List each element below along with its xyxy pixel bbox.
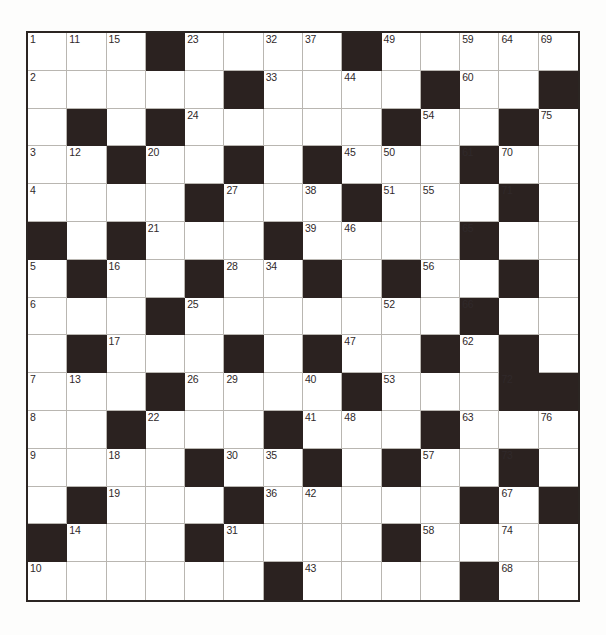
grid-letter-cell[interactable]: 63 <box>460 411 499 449</box>
grid-letter-cell[interactable] <box>382 487 421 525</box>
grid-letter-cell[interactable] <box>264 298 303 336</box>
grid-letter-cell[interactable] <box>28 335 67 373</box>
grid-letter-cell[interactable] <box>303 298 342 336</box>
grid-letter-cell[interactable]: 7 <box>28 373 67 411</box>
grid-letter-cell[interactable]: 53 <box>382 373 421 411</box>
grid-letter-cell[interactable] <box>421 298 460 336</box>
grid-letter-cell[interactable] <box>224 298 263 336</box>
grid-letter-cell[interactable] <box>342 260 381 298</box>
grid-letter-cell[interactable] <box>421 33 460 71</box>
grid-letter-cell[interactable]: 48 <box>342 411 381 449</box>
grid-letter-cell[interactable]: 69 <box>539 33 578 71</box>
grid-letter-cell[interactable] <box>539 335 578 373</box>
grid-letter-cell[interactable] <box>460 184 499 222</box>
grid-letter-cell[interactable]: 57 <box>421 449 460 487</box>
grid-letter-cell[interactable] <box>107 373 146 411</box>
grid-letter-cell[interactable] <box>146 487 185 525</box>
grid-letter-cell[interactable] <box>264 524 303 562</box>
grid-letter-cell[interactable]: 43 <box>303 562 342 600</box>
grid-letter-cell[interactable] <box>460 109 499 147</box>
grid-letter-cell[interactable]: 10 <box>28 562 67 600</box>
grid-letter-cell[interactable]: 74 <box>499 524 538 562</box>
grid-letter-cell[interactable]: 36 <box>264 487 303 525</box>
grid-letter-cell[interactable] <box>264 146 303 184</box>
grid-letter-cell[interactable] <box>264 109 303 147</box>
grid-letter-cell[interactable]: 45 <box>342 146 381 184</box>
grid-letter-cell[interactable]: 70 <box>499 146 538 184</box>
grid-letter-cell[interactable]: 1 <box>28 33 67 71</box>
grid-letter-cell[interactable] <box>342 487 381 525</box>
grid-letter-cell[interactable]: 9 <box>28 449 67 487</box>
grid-letter-cell[interactable] <box>107 71 146 109</box>
grid-letter-cell[interactable] <box>146 260 185 298</box>
grid-letter-cell[interactable] <box>499 411 538 449</box>
grid-letter-cell[interactable]: 30 <box>224 449 263 487</box>
grid-letter-cell[interactable]: 64 <box>499 33 538 71</box>
grid-letter-cell[interactable] <box>382 411 421 449</box>
grid-letter-cell[interactable] <box>185 335 224 373</box>
grid-letter-cell[interactable]: 62 <box>460 335 499 373</box>
grid-letter-cell[interactable] <box>421 146 460 184</box>
grid-letter-cell[interactable]: 16 <box>107 260 146 298</box>
grid-letter-cell[interactable] <box>421 487 460 525</box>
grid-letter-cell[interactable]: 24 <box>185 109 224 147</box>
grid-letter-cell[interactable] <box>28 487 67 525</box>
grid-letter-cell[interactable] <box>342 298 381 336</box>
grid-letter-cell[interactable] <box>146 562 185 600</box>
grid-letter-cell[interactable] <box>303 109 342 147</box>
grid-letter-cell[interactable]: 25 <box>185 298 224 336</box>
grid-letter-cell[interactable] <box>539 146 578 184</box>
grid-letter-cell[interactable] <box>264 184 303 222</box>
grid-letter-cell[interactable] <box>185 146 224 184</box>
grid-letter-cell[interactable]: 6 <box>28 298 67 336</box>
grid-letter-cell[interactable]: 8 <box>28 411 67 449</box>
grid-letter-cell[interactable] <box>67 562 106 600</box>
grid-letter-cell[interactable] <box>421 222 460 260</box>
grid-letter-cell[interactable]: 3 <box>28 146 67 184</box>
grid-letter-cell[interactable]: 67 <box>499 487 538 525</box>
grid-letter-cell[interactable] <box>499 71 538 109</box>
grid-letter-cell[interactable] <box>146 71 185 109</box>
grid-letter-cell[interactable]: 20 <box>146 146 185 184</box>
grid-letter-cell[interactable] <box>499 298 538 336</box>
grid-letter-cell[interactable] <box>539 562 578 600</box>
grid-letter-cell[interactable] <box>146 335 185 373</box>
grid-letter-cell[interactable] <box>146 449 185 487</box>
grid-letter-cell[interactable]: 34 <box>264 260 303 298</box>
grid-letter-cell[interactable]: 41 <box>303 411 342 449</box>
grid-letter-cell[interactable]: 52 <box>382 298 421 336</box>
grid-letter-cell[interactable] <box>146 524 185 562</box>
grid-letter-cell[interactable]: 68 <box>499 562 538 600</box>
grid-letter-cell[interactable]: 31 <box>224 524 263 562</box>
grid-letter-cell[interactable] <box>303 524 342 562</box>
grid-letter-cell[interactable]: 39 <box>303 222 342 260</box>
grid-letter-cell[interactable] <box>224 222 263 260</box>
grid-letter-cell[interactable]: 42 <box>303 487 342 525</box>
grid-letter-cell[interactable] <box>539 449 578 487</box>
grid-letter-cell[interactable]: 2 <box>28 71 67 109</box>
grid-letter-cell[interactable] <box>460 260 499 298</box>
grid-letter-cell[interactable]: 50 <box>382 146 421 184</box>
grid-letter-cell[interactable]: 75 <box>539 109 578 147</box>
grid-letter-cell[interactable] <box>107 109 146 147</box>
grid-letter-cell[interactable] <box>224 562 263 600</box>
grid-letter-cell[interactable]: 14 <box>67 524 106 562</box>
grid-letter-cell[interactable]: 27 <box>224 184 263 222</box>
grid-letter-cell[interactable] <box>342 524 381 562</box>
grid-letter-cell[interactable]: 32 <box>264 33 303 71</box>
grid-letter-cell[interactable] <box>107 562 146 600</box>
grid-letter-cell[interactable]: 5 <box>28 260 67 298</box>
grid-letter-cell[interactable]: 12 <box>67 146 106 184</box>
grid-letter-cell[interactable] <box>342 449 381 487</box>
grid-letter-cell[interactable] <box>539 222 578 260</box>
grid-letter-cell[interactable] <box>342 109 381 147</box>
grid-letter-cell[interactable] <box>264 335 303 373</box>
grid-letter-cell[interactable]: 29 <box>224 373 263 411</box>
grid-letter-cell[interactable] <box>460 449 499 487</box>
grid-letter-cell[interactable]: 55 <box>421 184 460 222</box>
grid-letter-cell[interactable]: 60 <box>460 71 499 109</box>
grid-letter-cell[interactable]: 28 <box>224 260 263 298</box>
grid-letter-cell[interactable] <box>539 184 578 222</box>
grid-letter-cell[interactable]: 33 <box>264 71 303 109</box>
grid-letter-cell[interactable] <box>382 335 421 373</box>
